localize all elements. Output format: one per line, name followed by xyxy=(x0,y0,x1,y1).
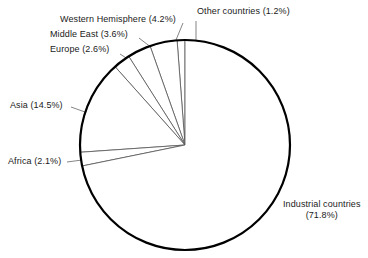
slice-label-industrial-countries-line2: (71.8%) xyxy=(283,210,361,221)
slice-label-industrial-countries-line1: Industrial countries xyxy=(283,199,361,210)
slice-label-industrial-countries: Industrial countries (71.8%) xyxy=(283,199,361,221)
leader-line-western-hemisphere xyxy=(176,23,183,40)
slice-label-asia: Asia (14.5%) xyxy=(10,100,63,111)
slice-label-europe: Europe (2.6%) xyxy=(50,44,109,55)
leader-line-africa xyxy=(67,160,82,162)
slice-label-western-hemisphere: Western Hemisphere (4.2%) xyxy=(60,14,176,25)
pie-chart-figure: Western Hemisphere (4.2%) Middle East (3… xyxy=(0,0,368,258)
slice-label-other-countries: Other countries (1.2%) xyxy=(197,6,290,17)
slice-label-middle-east: Middle East (3.6%) xyxy=(50,29,128,40)
slice-label-africa: Africa (2.1%) xyxy=(8,156,61,167)
leader-line-asia xyxy=(71,107,85,112)
